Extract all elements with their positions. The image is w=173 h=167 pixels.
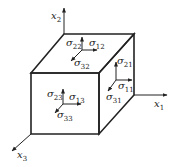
front-face-stresses: σ23 σ13 σ33	[47, 88, 85, 123]
top-face-stresses: σ22 σ12 σ32	[66, 37, 105, 71]
sigma-33-label: σ33	[57, 109, 73, 123]
sigma-31-label: σ31	[106, 91, 122, 105]
stress-cube-diagram: x2 x1 x3 σ22 σ12 σ32 σ21 σ11 σ31 σ23 σ13…	[0, 0, 173, 167]
coordinate-axes: x2 x1 x3	[12, 8, 167, 163]
sigma-21-label: σ21	[117, 55, 133, 69]
sigma-11-label: σ11	[118, 80, 134, 94]
sigma-23-label: σ23	[47, 88, 63, 102]
x3-axis-label: x3	[17, 149, 27, 163]
sigma-22-label: σ22	[66, 37, 82, 51]
sigma-13-label: σ13	[69, 91, 85, 105]
x2-axis-label: x2	[51, 10, 61, 24]
x1-axis-label: x1	[154, 98, 164, 112]
sigma-12-label: σ12	[89, 37, 105, 51]
sigma-31-arrow	[108, 80, 116, 91]
sigma-32-label: σ32	[74, 57, 90, 71]
right-face-stresses: σ21 σ11 σ31	[106, 55, 134, 105]
